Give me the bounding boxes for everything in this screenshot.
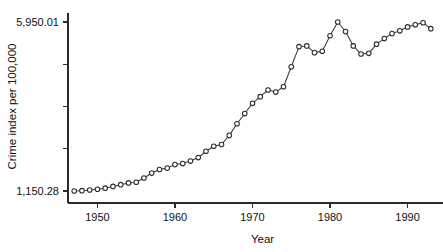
data-point <box>211 144 216 149</box>
data-point <box>219 142 224 147</box>
data-point <box>343 29 348 34</box>
data-point <box>126 181 131 186</box>
data-point <box>149 171 154 176</box>
data-point <box>165 166 170 171</box>
data-point <box>258 94 263 99</box>
data-point <box>366 51 371 56</box>
x-axis-tick-label-4: 1990 <box>395 211 419 223</box>
data-point <box>188 159 193 164</box>
data-point <box>103 186 108 191</box>
data-point <box>134 180 139 185</box>
data-point <box>405 25 410 30</box>
data-point <box>421 20 426 25</box>
y-axis-group: 5,950.01 1,150.28 Crime index per 100,00… <box>6 13 68 203</box>
data-point <box>142 176 147 181</box>
data-point <box>173 162 178 167</box>
data-point <box>95 187 100 192</box>
series-group <box>72 20 433 194</box>
data-point <box>429 26 434 31</box>
data-point <box>335 20 340 25</box>
data-point <box>242 111 247 116</box>
data-point <box>413 23 418 28</box>
data-point <box>382 36 387 41</box>
y-axis-title: Crime index per 100,000 <box>6 44 18 170</box>
x-axis-tick-label-0: 1950 <box>85 211 109 223</box>
data-point <box>297 44 302 49</box>
data-point <box>235 121 240 126</box>
data-point <box>374 42 379 47</box>
data-point <box>281 84 286 89</box>
data-point <box>359 52 364 57</box>
data-point <box>328 33 333 38</box>
y-axis-tick-label-bottom: 1,150.28 <box>16 185 59 197</box>
data-point <box>157 167 162 172</box>
data-point <box>250 101 255 106</box>
data-point <box>72 189 77 194</box>
data-point <box>180 161 185 166</box>
x-axis-tick-labels: 19501960197019801990 <box>85 211 420 223</box>
data-point <box>111 184 116 189</box>
series-line-crime-index <box>74 22 431 191</box>
data-point <box>273 90 278 95</box>
data-point <box>204 149 209 154</box>
data-point <box>390 31 395 36</box>
data-point <box>312 50 317 55</box>
x-axis-tick-label-3: 1980 <box>318 211 342 223</box>
data-point <box>227 133 232 138</box>
data-point <box>196 155 201 160</box>
data-point <box>266 88 271 93</box>
data-point <box>397 29 402 34</box>
data-point <box>304 44 309 49</box>
x-axis-ticks <box>97 203 407 208</box>
series-markers-crime-index <box>72 20 433 194</box>
data-point <box>351 44 356 49</box>
chart-canvas: 5,950.01 1,150.28 Crime index per 100,00… <box>0 0 443 252</box>
y-axis-tick-label-top: 5,950.01 <box>16 16 59 28</box>
data-point <box>320 49 325 54</box>
y-axis-ticks <box>63 22 68 191</box>
data-point <box>80 188 85 193</box>
crime-index-line-chart: 5,950.01 1,150.28 Crime index per 100,00… <box>0 0 443 252</box>
x-axis-tick-label-2: 1970 <box>240 211 264 223</box>
data-point <box>87 188 92 193</box>
x-axis-tick-label-1: 1960 <box>163 211 187 223</box>
x-axis-title: Year <box>251 233 274 245</box>
data-point <box>118 182 123 187</box>
x-axis-group: 19501960197019801990 Year <box>68 203 443 245</box>
data-point <box>289 64 294 69</box>
